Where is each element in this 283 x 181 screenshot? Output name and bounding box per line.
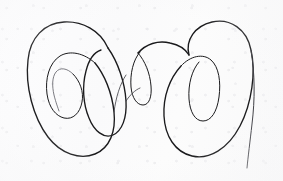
ink-drawing xyxy=(0,0,283,181)
left-inner-spiral xyxy=(47,53,95,118)
center-lower-connector xyxy=(126,88,140,101)
drawing-canvas: Scanned hand-drawn ink doodle of three n… xyxy=(0,0,283,181)
center-connector xyxy=(138,42,189,55)
left-spiral-tail xyxy=(53,69,73,111)
right-descender-tail xyxy=(247,50,254,168)
left-loop-cluster xyxy=(27,22,126,156)
center-loop-cluster xyxy=(126,42,189,105)
left-lower-connector-arc xyxy=(114,75,126,112)
left-middle-loop xyxy=(84,48,127,136)
right-inner-loop xyxy=(181,56,220,121)
right-outer-loop xyxy=(164,21,253,157)
left-outer-loop xyxy=(27,22,114,156)
right-loop-cluster xyxy=(164,21,254,168)
center-small-loop xyxy=(131,52,151,105)
